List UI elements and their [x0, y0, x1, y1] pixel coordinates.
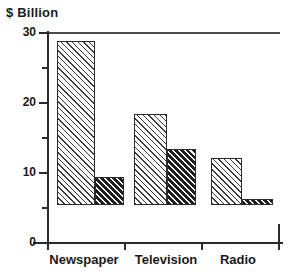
- bar-group-radio: [211, 0, 242, 205]
- x-axis-label-newspaper: Newspaper: [38, 252, 130, 267]
- x-axis-label-radio: Radio: [198, 252, 278, 267]
- x-tick-television: [201, 243, 203, 250]
- bar-television-series-2: [167, 149, 196, 205]
- bar-group-newspaper: [57, 0, 95, 205]
- bar-radio-series-2: [242, 199, 273, 205]
- bar-chart: $ Billion 30 20 10 0: [0, 0, 296, 279]
- x-tick-start: [47, 243, 49, 250]
- x-tick-radio: [278, 243, 280, 250]
- x-axis-line: [33, 242, 283, 244]
- bar-television-series-1: [134, 114, 167, 205]
- x-tick-newspaper: [124, 243, 126, 250]
- bar-group-radio-2: [242, 0, 273, 205]
- bar-group-television: [134, 0, 167, 205]
- bar-newspaper-series-1: [57, 41, 95, 205]
- bars-layer: [0, 0, 296, 242]
- bar-group-newspaper-2: [95, 0, 124, 205]
- bar-group-television-2: [167, 0, 196, 205]
- bar-radio-series-1: [211, 158, 242, 205]
- bar-newspaper-series-2: [95, 177, 124, 205]
